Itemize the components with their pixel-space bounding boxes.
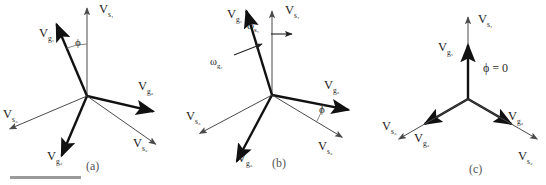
vector-label-V-s₂: Vs₂ (318, 140, 333, 155)
vector-label-V-g₃: Vg₃ (414, 132, 429, 147)
vector-label-V-g₃: Vg₃ (237, 152, 252, 167)
omega-label-s₁: ωs₁ (247, 21, 259, 34)
vector-label-V-g₃: Vg₃ (47, 150, 62, 165)
vector-label-V-s₃: Vs₃ (382, 120, 397, 135)
vector-label-V-s₃: Vs₃ (186, 110, 201, 125)
vector-label-V-g₁: Vg₁ (438, 41, 453, 56)
caption-c: (c) (469, 163, 482, 175)
panel-a-vectors (10, 8, 156, 156)
vector-label-V-s₁: Vs₁ (285, 4, 300, 19)
scale-bar (10, 176, 81, 179)
vector-label-V-s₂: Vs₂ (133, 137, 148, 152)
vector-label-V-g₁: Vg₁ (227, 8, 242, 23)
caption-b: (b) (272, 157, 286, 169)
vector-V-s₂ (468, 99, 537, 139)
vector-label-V-s₁: Vs₁ (478, 13, 493, 28)
vector-label-V-s₁: Vs₁ (99, 3, 114, 18)
phi-label-b: ϕ (319, 104, 325, 115)
caption-a: (a) (86, 160, 99, 172)
phi-label-a: ϕ (75, 37, 81, 48)
vector-label-V-s₂: Vs₂ (518, 150, 533, 165)
vector-label-V-g₂: Vg₂ (324, 79, 339, 94)
figure-container: Vs₁Vg₁Vg₂Vs₂Vg₃Vs₃ Vs₁Vg₁Vg₂Vs₂Vg₃Vs₃ωs₁… (0, 0, 546, 185)
vector-label-V-g₂: Vg₂ (138, 80, 153, 95)
phi-equals-zero-label-c: ϕ = 0 (483, 62, 508, 74)
omega-label-g₁: ωg₁ (210, 57, 223, 70)
vector-label-V-s₃: Vs₃ (3, 108, 18, 123)
vector-V-g₂ (87, 96, 153, 111)
vector-label-V-g₂: Vg₂ (508, 110, 523, 125)
panel-b-omega-arrows (234, 34, 292, 55)
vector-V-g₁ (57, 24, 87, 96)
vector-label-V-g₁: Vg₁ (39, 27, 54, 42)
vector-V-s₃ (399, 99, 468, 139)
